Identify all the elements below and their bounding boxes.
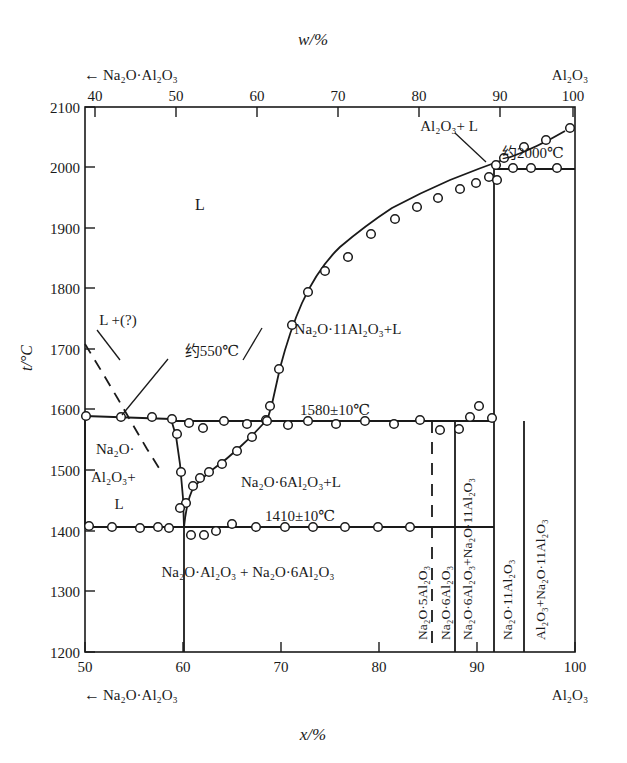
data-point (189, 482, 198, 491)
data-point (455, 425, 464, 434)
data-point (321, 267, 330, 276)
annotation-about-550: 约550℃ (185, 343, 239, 359)
bottom-left-arrow-icon: ← (84, 686, 100, 703)
data-point (220, 417, 229, 426)
vertical-label-alumina-plus-na11: Al₂O₃+Na₂O·11Al₂O₃ (533, 519, 548, 640)
data-point (413, 203, 422, 212)
data-point (566, 124, 575, 133)
data-point (493, 176, 502, 185)
top-left-arrow-icon: ← (84, 66, 100, 83)
data-point (196, 474, 205, 483)
vertical-label-na11: Na₂O·11Al₂O₃ (500, 559, 515, 640)
region-label-na1-line2: Al₂O₃+ (91, 469, 136, 485)
data-point (266, 402, 275, 411)
y-axis-title: t/°C (18, 345, 35, 371)
y-tick-label: 1500 (50, 463, 80, 479)
data-point (406, 523, 415, 532)
data-point (248, 433, 257, 442)
vertical-label-na6: Na₂O·6Al₂O₃ (438, 566, 453, 640)
data-point (391, 215, 400, 224)
bottom-tick-label: 90 (470, 659, 485, 675)
data-point (341, 523, 350, 532)
data-point (434, 194, 443, 203)
data-point (199, 424, 208, 433)
data-point (344, 253, 353, 262)
bottom-left-endmember: ← Na₂O·Al₂O₃ (84, 686, 178, 703)
data-point (367, 230, 376, 239)
data-point (233, 447, 242, 456)
bottom-tick-label: 100 (564, 659, 587, 675)
bottom-tick-label: 50 (78, 659, 93, 675)
data-point (472, 179, 481, 188)
vertical-label-na5: Na₂O·5Al₂O₃ (415, 566, 430, 640)
data-point (275, 365, 284, 374)
phase-diagram-figure: w/% ← Na₂O·Al₂O₃ Al₂O₃ 40 50 60 70 80 90… (0, 0, 627, 763)
top-tick-label: 70 (331, 88, 346, 104)
region-label-alumina-plus-liquid: Al₂O₃+ L (420, 118, 478, 134)
data-point (165, 524, 174, 533)
top-axis-title: w/% (298, 30, 328, 49)
data-point (252, 523, 261, 532)
data-point (284, 421, 293, 430)
data-point (416, 416, 425, 425)
data-point (332, 420, 341, 429)
annotation-1580: 1580±10℃ (300, 402, 370, 418)
top-tick-label: 100 (562, 88, 585, 104)
annotation-1410: 1410±10℃ (265, 508, 335, 524)
data-point (200, 531, 209, 540)
phase-diagram-svg: w/% ← Na₂O·Al₂O₃ Al₂O₃ 40 50 60 70 80 90… (0, 0, 627, 763)
bottom-right-endmember-label: Al₂O₃ (552, 687, 588, 703)
data-point (85, 522, 94, 531)
data-point (553, 164, 562, 173)
y-tick-label: 1600 (50, 402, 80, 418)
region-label-na1-line3: L (114, 496, 123, 512)
data-point (148, 413, 157, 422)
y-tick-label: 1300 (50, 584, 80, 600)
data-point (82, 412, 91, 421)
data-point (456, 185, 465, 194)
y-tick-label: 2100 (50, 100, 80, 116)
vertical-label-na6-plus-na11: Na₂O·6Al₂O₃+Na₂O·11Al₂O₃ (460, 478, 475, 640)
y-tick-label: 1200 (50, 645, 80, 661)
data-point (228, 520, 237, 529)
data-point (173, 430, 182, 439)
bottom-tick-label: 60 (176, 659, 191, 675)
region-label-liquid-unknown: L +(?) (99, 312, 136, 329)
figure-background (0, 0, 627, 763)
top-tick-label: 50 (169, 88, 184, 104)
region-label-na6-plus-liquid: Na₂O·6Al₂O₃+L (241, 474, 341, 490)
data-point (185, 419, 194, 428)
top-left-endmember: ← Na₂O·Al₂O₃ (84, 66, 178, 83)
y-tick-label: 1700 (50, 342, 80, 358)
top-left-endmember-label: Na₂O·Al₂O₃ (103, 67, 178, 83)
y-tick-label: 1400 (50, 524, 80, 540)
data-point (117, 413, 126, 422)
data-point (205, 468, 214, 477)
bottom-tick-label: 70 (274, 659, 289, 675)
top-tick-label: 80 (412, 88, 427, 104)
data-point (218, 460, 227, 469)
data-point (263, 417, 272, 426)
bottom-tick-label: 80 (372, 659, 387, 675)
region-label-na1-line1: Na₂O· (96, 441, 135, 457)
annotation-about-2000: 约2000℃ (502, 145, 564, 161)
data-point (168, 415, 177, 424)
data-point (509, 164, 518, 173)
y-tick-label: 1900 (50, 221, 80, 237)
data-point (466, 413, 475, 422)
data-point (374, 523, 383, 532)
data-point (187, 531, 196, 540)
data-point (304, 288, 313, 297)
data-point (436, 426, 445, 435)
top-tick-label: 90 (493, 88, 508, 104)
data-point (136, 524, 145, 533)
data-point (176, 504, 185, 513)
data-point (154, 523, 163, 532)
data-point (243, 420, 252, 429)
data-point (527, 164, 536, 173)
top-right-endmember-label: Al₂O₃ (552, 67, 588, 83)
region-label-solid-two-phase: Na₂O·Al₂O₃ + Na₂O·6Al₂O₃ (161, 564, 334, 580)
data-point (177, 468, 186, 477)
data-point (475, 402, 484, 411)
y-tick-label: 2000 (50, 160, 80, 176)
